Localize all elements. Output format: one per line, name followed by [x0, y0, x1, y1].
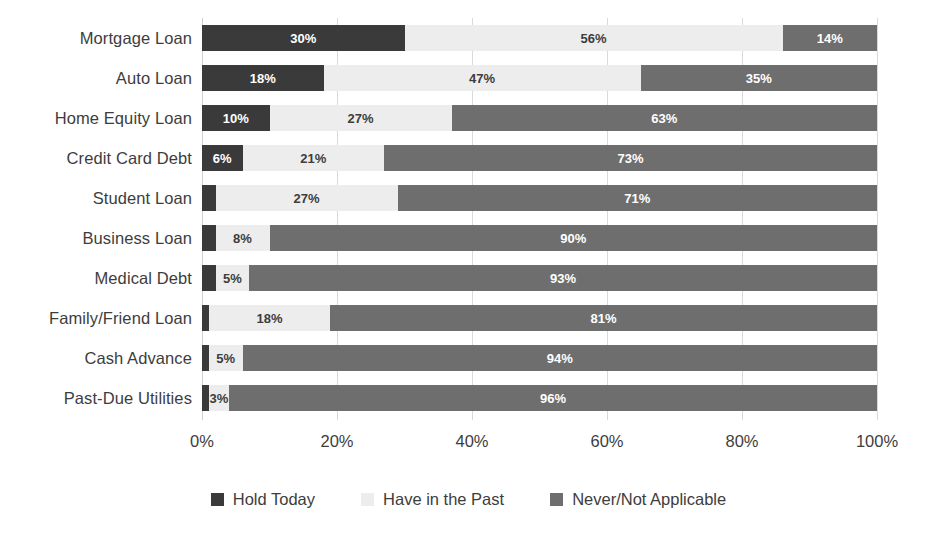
x-axis-tick-label: 60%	[590, 432, 623, 451]
bar-segment: 71%	[398, 185, 877, 211]
stacked-bar: 18%47%35%	[202, 65, 877, 91]
x-axis-tick-label: 100%	[856, 432, 898, 451]
bar-row: Family/Friend Loan18%81%	[0, 298, 937, 338]
bar-row: Medical Debt5%93%	[0, 258, 937, 298]
stacked-bar: 10%27%63%	[202, 105, 877, 131]
legend-item[interactable]: Have in the Past	[361, 490, 504, 509]
legend-label: Hold Today	[233, 490, 315, 509]
bar-segment	[202, 385, 209, 411]
legend-swatch-icon	[361, 493, 374, 506]
stacked-bar: 6%21%73%	[202, 145, 877, 171]
plot-area: Mortgage Loan30%56%14%Auto Loan18%47%35%…	[0, 18, 937, 420]
stacked-bar: 8%90%	[202, 225, 877, 251]
x-axis-tick-label: 80%	[725, 432, 758, 451]
bar-segment: 5%	[209, 345, 243, 371]
bar-segment	[202, 305, 209, 331]
bar-row: Past-Due Utilities3%96%	[0, 378, 937, 418]
bar-segment	[202, 185, 216, 211]
bar-segment: 18%	[202, 65, 324, 91]
stacked-bar: 18%81%	[202, 305, 877, 331]
bar-segment: 5%	[216, 265, 250, 291]
bar-segment: 27%	[216, 185, 398, 211]
category-label: Business Loan	[0, 218, 192, 258]
bar-row: Cash Advance5%94%	[0, 338, 937, 378]
bar-segment: 3%	[209, 385, 229, 411]
bar-segment: 56%	[405, 25, 783, 51]
stacked-bar: 27%71%	[202, 185, 877, 211]
bar-row: Business Loan8%90%	[0, 218, 937, 258]
bar-segment: 18%	[209, 305, 331, 331]
bar-row: Credit Card Debt6%21%73%	[0, 138, 937, 178]
bar-segment: 6%	[202, 145, 243, 171]
category-label: Credit Card Debt	[0, 138, 192, 178]
x-axis-tick-label: 20%	[320, 432, 353, 451]
legend-label: Have in the Past	[383, 490, 504, 509]
bar-segment: 30%	[202, 25, 405, 51]
bar-segment: 73%	[384, 145, 877, 171]
bar-rows: Mortgage Loan30%56%14%Auto Loan18%47%35%…	[0, 18, 937, 420]
bar-segment: 27%	[270, 105, 452, 131]
category-label: Mortgage Loan	[0, 18, 192, 58]
bar-segment: 96%	[229, 385, 877, 411]
category-label: Cash Advance	[0, 338, 192, 378]
stacked-bar-chart: Mortgage Loan30%56%14%Auto Loan18%47%35%…	[0, 0, 937, 538]
legend-swatch-icon	[550, 493, 563, 506]
bar-segment: 8%	[216, 225, 270, 251]
legend-swatch-icon	[211, 493, 224, 506]
bar-segment: 14%	[783, 25, 878, 51]
x-axis: 0%20%40%60%80%100%	[0, 432, 937, 460]
bar-segment: 35%	[641, 65, 877, 91]
stacked-bar: 5%94%	[202, 345, 877, 371]
stacked-bar: 5%93%	[202, 265, 877, 291]
bar-segment	[202, 265, 216, 291]
category-label: Student Loan	[0, 178, 192, 218]
bar-segment: 21%	[243, 145, 385, 171]
category-label: Past-Due Utilities	[0, 378, 192, 418]
bar-segment: 94%	[243, 345, 878, 371]
category-label: Home Equity Loan	[0, 98, 192, 138]
x-axis-tick-label: 0%	[190, 432, 214, 451]
stacked-bar: 3%96%	[202, 385, 877, 411]
category-label: Medical Debt	[0, 258, 192, 298]
bar-segment: 10%	[202, 105, 270, 131]
stacked-bar: 30%56%14%	[202, 25, 877, 51]
bar-segment	[202, 225, 216, 251]
bar-segment: 90%	[270, 225, 878, 251]
legend-label: Never/Not Applicable	[572, 490, 726, 509]
legend-item[interactable]: Hold Today	[211, 490, 315, 509]
bar-segment: 63%	[452, 105, 877, 131]
bar-row: Auto Loan18%47%35%	[0, 58, 937, 98]
bar-row: Home Equity Loan10%27%63%	[0, 98, 937, 138]
category-label: Auto Loan	[0, 58, 192, 98]
category-label: Family/Friend Loan	[0, 298, 192, 338]
bar-segment	[202, 345, 209, 371]
chart-legend: Hold TodayHave in the PastNever/Not Appl…	[0, 484, 937, 514]
x-axis-tick-label: 40%	[455, 432, 488, 451]
bar-segment: 93%	[249, 265, 877, 291]
bar-segment: 47%	[324, 65, 641, 91]
bar-row: Student Loan27%71%	[0, 178, 937, 218]
legend-item[interactable]: Never/Not Applicable	[550, 490, 726, 509]
bar-segment: 81%	[330, 305, 877, 331]
bar-row: Mortgage Loan30%56%14%	[0, 18, 937, 58]
